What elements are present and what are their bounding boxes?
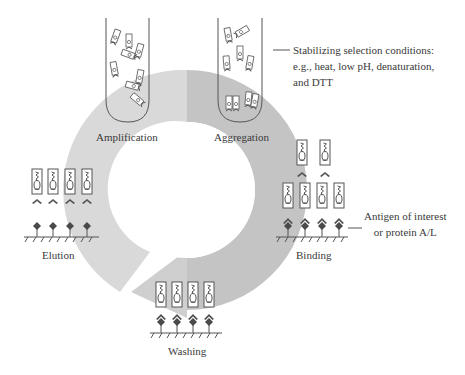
antigen-note: Antigen of interest or protein A/L <box>364 208 446 240</box>
antigen-line-1: Antigen of interest <box>364 208 446 224</box>
binding-label: Binding <box>296 250 331 261</box>
elution-label: Elution <box>42 250 74 261</box>
stabilizing-line-1: Stabilizing selection conditions: <box>293 42 434 58</box>
washing-label: Washing <box>168 346 206 357</box>
cycle-ring <box>63 70 307 318</box>
amplification-label: Amplification <box>96 132 158 143</box>
stabilizing-line-3: and DTT <box>293 74 434 90</box>
stabilizing-line-2: e.g., heat, low pH, denaturation, <box>293 58 434 74</box>
phage-display-cycle-diagram: Amplification Aggregation Elution Bindin… <box>0 0 465 375</box>
aggregation-label: Aggregation <box>214 132 269 143</box>
stabilizing-conditions-note: Stabilizing selection conditions: e.g., … <box>293 42 434 90</box>
antigen-line-2: or protein A/L <box>364 224 446 240</box>
